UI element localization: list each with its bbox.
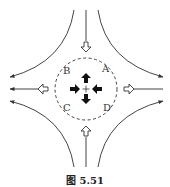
point-label-c: C: [63, 103, 71, 113]
open-arrow-left-outward-icon: [38, 84, 48, 94]
diagram-canvas: [0, 0, 170, 187]
solid-arrow-right-icon: [70, 84, 80, 94]
point-label-a: A: [102, 64, 109, 74]
open-arrow-top-down-icon: [81, 42, 91, 52]
open-arrow-bottom-up-icon: [81, 126, 91, 136]
figure-caption: 图 5.51: [0, 172, 170, 187]
point-label-d: D: [103, 103, 111, 113]
flow-diagram: A B C D 图 5.51: [0, 0, 170, 187]
solid-arrow-left-icon: [92, 84, 102, 94]
center-plus-icon: [83, 86, 90, 93]
point-label-b: B: [63, 66, 70, 76]
solid-arrow-down-icon: [81, 94, 91, 104]
open-arrow-right-outward-icon: [124, 84, 134, 94]
solid-arrow-up-icon: [81, 73, 91, 83]
